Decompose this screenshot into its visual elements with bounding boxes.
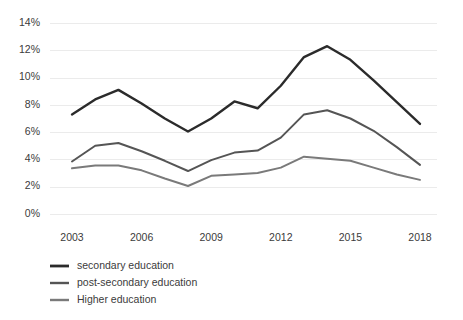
y-tick-label-10%: 10% [19, 70, 40, 82]
chart-canvas: 0%2%4%6%8%10%12%14% 20032006200920122015… [0, 0, 463, 320]
line-chart: 0%2%4%6%8%10%12%14% 20032006200920122015… [0, 0, 463, 320]
y-tick-label-2%: 2% [25, 179, 40, 191]
series-line-post-secondary-education [72, 110, 420, 171]
y-tick-label-14%: 14% [19, 16, 40, 28]
x-axis-tick-labels: 200320062009201220152018 [60, 231, 432, 243]
y-tick-label-0%: 0% [25, 207, 40, 219]
legend-label-0: secondary education [77, 259, 174, 271]
y-tick-label-4%: 4% [25, 152, 40, 164]
x-tick-label-2006: 2006 [130, 231, 154, 243]
gridlines-group [50, 24, 437, 215]
legend-label-1: post-secondary education [77, 276, 197, 288]
series-line-secondary-education [72, 46, 420, 131]
x-tick-label-2018: 2018 [408, 231, 432, 243]
series-lines-group [72, 46, 420, 186]
y-tick-label-6%: 6% [25, 125, 40, 137]
x-tick-label-2012: 2012 [269, 231, 293, 243]
y-tick-label-8%: 8% [25, 98, 40, 110]
x-tick-label-2015: 2015 [339, 231, 363, 243]
legend-label-2: Higher education [77, 293, 157, 305]
chart-legend: secondary educationpost-secondary educat… [50, 259, 197, 305]
series-line-higher-education [72, 157, 420, 186]
y-tick-label-12%: 12% [19, 43, 40, 55]
x-tick-label-2009: 2009 [200, 231, 224, 243]
y-axis-tick-labels: 0%2%4%6%8%10%12%14% [19, 16, 40, 219]
x-tick-label-2003: 2003 [60, 231, 84, 243]
